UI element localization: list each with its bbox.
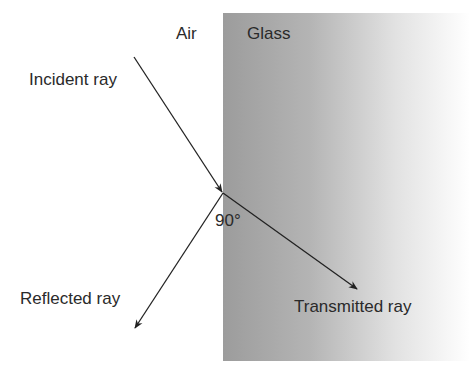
reflected-ray-label: Reflected ray xyxy=(20,290,120,307)
transmitted-ray-label: Transmitted ray xyxy=(294,298,411,315)
glass-label: Glass xyxy=(247,25,290,42)
air-label: Air xyxy=(176,25,197,42)
reflected-ray-line xyxy=(135,193,223,328)
incident-ray-label: Incident ray xyxy=(29,71,117,88)
incident-ray-line xyxy=(134,57,222,192)
refraction-diagram xyxy=(0,0,470,380)
angle-label: 90° xyxy=(215,212,241,229)
